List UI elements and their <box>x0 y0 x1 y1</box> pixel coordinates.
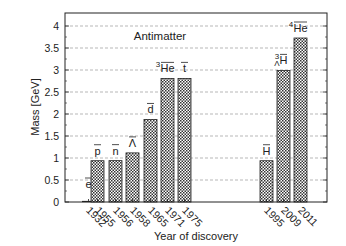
y-tick-label: 3.5 <box>44 42 59 54</box>
bar-2011: He4 <box>289 20 308 202</box>
bar-1975: t <box>178 62 191 202</box>
bar-1965: d <box>144 103 157 202</box>
particle-symbol: He <box>293 22 307 34</box>
y-tick-label: 4 <box>53 20 59 32</box>
x-axis-ticks: 1932195519561958196519711975199520092011 <box>84 199 321 229</box>
y-tick-label: 1 <box>53 152 59 164</box>
particle-label: p <box>94 145 101 157</box>
particle-symbol: He <box>160 62 174 74</box>
y-axis-title: Mass [GeV] <box>29 78 41 135</box>
y-tick-label: 3 <box>53 64 59 76</box>
bar <box>109 161 122 202</box>
bar-2009: H3Λ <box>274 52 290 202</box>
bar-1956: n <box>109 145 122 202</box>
bar <box>144 119 157 202</box>
bars: epnΛdHe3tHH3ΛHe4 <box>82 20 308 202</box>
chart-title: Antimatter <box>134 30 187 42</box>
particle-label: He3 <box>156 60 175 74</box>
particle-symbol: p <box>94 145 100 157</box>
bar <box>294 38 307 202</box>
bar <box>161 78 174 202</box>
particle-label: Λ <box>129 137 137 149</box>
y-tick-label: 1.5 <box>44 130 59 142</box>
particle-label: H <box>263 145 271 157</box>
particle-label: t <box>181 62 188 74</box>
bar <box>91 161 104 202</box>
particle-label: He4 <box>289 20 308 34</box>
particle-label: d <box>147 103 154 115</box>
particle-symbol: H <box>263 145 271 157</box>
bar <box>126 153 139 202</box>
particle-symbol: n <box>112 145 118 157</box>
particle-superscript: 3 <box>156 60 161 69</box>
y-tick-label: 2 <box>53 108 59 120</box>
particle-superscript: 4 <box>289 20 294 29</box>
particle-symbol: Λ <box>129 137 137 149</box>
bar <box>260 161 273 202</box>
bar-1995: H <box>260 145 273 202</box>
particle-label: H3Λ <box>274 52 287 68</box>
particle-label: n <box>112 145 119 157</box>
bar <box>178 78 191 202</box>
particle-subscript: Λ <box>274 59 280 68</box>
particle-symbol: t <box>183 62 186 74</box>
y-tick-label: 0 <box>53 196 59 208</box>
bar <box>277 70 290 202</box>
bar-1971: He3 <box>156 60 175 202</box>
x-axis-title: Year of discovery <box>154 230 238 242</box>
bar-1955: p <box>91 145 104 202</box>
y-tick-label: 0.5 <box>44 174 59 186</box>
antimatter-bar-chart: epnΛdHe3tHH3ΛHe4 00.511.522.533.54 19321… <box>0 0 346 246</box>
particle-symbol: H <box>280 54 288 66</box>
y-tick-label: 2.5 <box>44 86 59 98</box>
bar-1958: Λ <box>126 137 139 202</box>
particle-symbol: d <box>147 103 153 115</box>
